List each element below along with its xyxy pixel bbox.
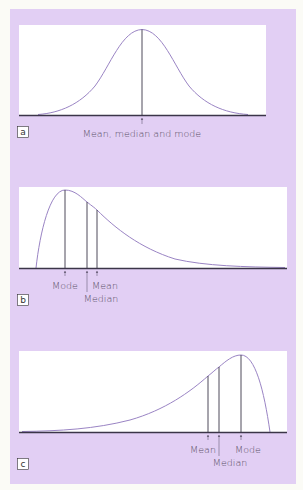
panel-b-label-median: Median (84, 293, 119, 304)
arrow-up-icon (240, 435, 242, 437)
panel-b-label-mode: Mode (52, 280, 78, 291)
panel-b: Mode Mean Median b (18, 187, 288, 306)
panel-a-label-mean-median-mode: Mean, median and mode (83, 128, 202, 139)
distribution-figure: Mean, median and mode a Mode Mean Median… (0, 0, 303, 490)
panel-a: Mean, median and mode a (18, 25, 267, 139)
arrow-up-icon (207, 435, 209, 437)
arrow-up-icon (141, 118, 143, 120)
panel-c-label-mode: Mode (235, 444, 261, 455)
panel-c-letter: c (21, 459, 26, 469)
arrow-up-icon (64, 271, 66, 273)
panel-b-label-mean: Mean (92, 280, 118, 291)
arrow-up-icon (218, 435, 220, 437)
panel-c-label-median: Median (213, 457, 248, 468)
arrow-up-icon (86, 271, 88, 273)
panel-a-letter: a (20, 127, 26, 137)
panel-c: Mean Mode Median c (18, 351, 288, 470)
panel-b-letter: b (20, 295, 26, 305)
panel-c-plot-area (19, 351, 287, 432)
arrow-up-icon (96, 271, 98, 273)
panel-a-plot-area (19, 25, 266, 115)
panel-c-label-mean: Mean (190, 444, 216, 455)
panel-b-plot-area (19, 187, 287, 268)
